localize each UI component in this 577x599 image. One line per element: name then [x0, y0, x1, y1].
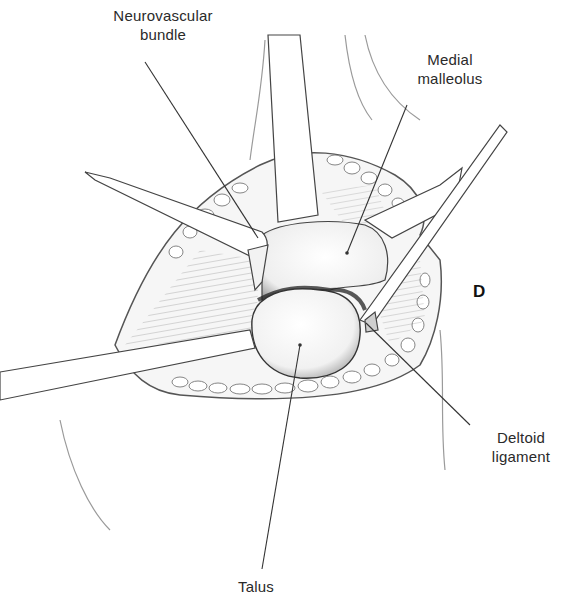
- label-neurovascular-bundle: Neurovascular bundle: [108, 6, 218, 44]
- talus: [252, 289, 360, 378]
- label-talus: Talus: [226, 577, 286, 596]
- label-deltoid-ligament: Deltoid ligament: [478, 428, 564, 466]
- label-line: Talus: [226, 577, 286, 596]
- label-line: Medial: [405, 50, 495, 69]
- label-line: bundle: [108, 25, 218, 44]
- label-line: Deltoid: [478, 428, 564, 447]
- label-medial-malleolus: Medial malleolus: [405, 50, 495, 88]
- label-line: malleolus: [405, 69, 495, 88]
- label-line: ligament: [478, 447, 564, 466]
- surgical-illustration: [0, 0, 577, 599]
- panel-letter: D: [473, 282, 485, 302]
- label-line: Neurovascular: [108, 6, 218, 25]
